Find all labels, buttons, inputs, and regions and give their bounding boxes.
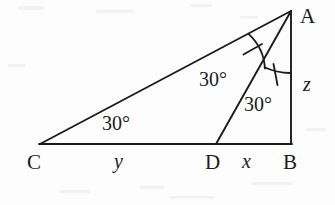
angle-label-at-c: 30° xyxy=(102,113,130,133)
segment-label-y: y xyxy=(114,151,123,171)
triangle-drawing xyxy=(0,0,335,205)
vertex-label-b: B xyxy=(283,152,297,173)
vertex-label-a: A xyxy=(300,6,315,27)
angle-tick-dab xyxy=(274,64,278,85)
angle-arc-cad xyxy=(249,34,266,69)
angle-label-cad: 30° xyxy=(199,69,227,89)
angle-label-dab: 30° xyxy=(244,94,272,114)
geometry-figure: A B C D y x z 30° 30° 30° xyxy=(0,0,335,205)
segment-label-z: z xyxy=(303,74,311,94)
angle-arc-dab xyxy=(264,67,291,73)
segment-label-x: x xyxy=(242,151,251,171)
vertex-label-c: C xyxy=(27,152,41,173)
vertex-label-d: D xyxy=(205,152,220,173)
